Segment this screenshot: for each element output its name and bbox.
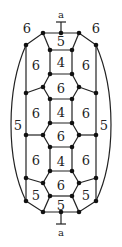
cut-label-bottom: a (58, 227, 64, 238)
face-label-sq3: 4 (57, 154, 65, 169)
face-label-outer-right: 5 (100, 118, 108, 133)
face-label-outer-left: 5 (14, 118, 22, 133)
face-label-hex1: 6 (57, 81, 65, 96)
face-label-r3: 6 (82, 153, 90, 168)
face-label-r1: 6 (82, 58, 90, 73)
face-label-l3: 6 (32, 153, 40, 168)
face-label-r2: 6 (82, 106, 90, 121)
cut-label-top: a (58, 9, 64, 20)
face-label-l-pent: 5 (32, 188, 40, 203)
face-labels: 66546666465566466555 (14, 21, 108, 213)
face-label-sq2: 4 (57, 105, 65, 120)
face-label-r-pent: 5 (82, 188, 90, 203)
graph-diagram: a a 66546666465566466555 (0, 0, 122, 247)
face-label-top-right: 6 (92, 21, 100, 36)
face-label-hex3: 6 (57, 178, 65, 193)
face-label-l2: 6 (32, 106, 40, 121)
face-label-bottom-pentagon: 5 (57, 198, 65, 213)
face-label-sq1: 4 (57, 55, 65, 70)
face-label-hex2: 6 (57, 129, 65, 144)
face-label-top-pentagon: 5 (57, 34, 65, 49)
face-label-l1: 6 (32, 58, 40, 73)
edges (11, 22, 111, 224)
face-label-top-left: 6 (23, 21, 31, 36)
